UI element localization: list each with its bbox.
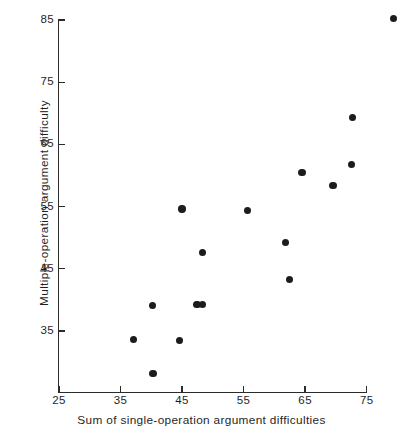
x-tick-mark [304, 386, 305, 392]
data-point [193, 301, 200, 308]
x-tick-mark [181, 386, 182, 392]
x-axis-title: Sum of single-operation argument difficu… [0, 413, 403, 427]
data-point [329, 182, 336, 189]
data-point [149, 370, 156, 377]
y-tick-mark [59, 268, 65, 269]
x-tick-mark [58, 386, 59, 392]
scatter-plot-figure: 354555657585 253545556575 Sum of single-… [0, 0, 403, 438]
data-point [130, 336, 137, 343]
x-tick-label: 35 [106, 394, 136, 406]
data-point [149, 302, 156, 309]
data-point [199, 249, 206, 256]
data-point [282, 239, 289, 246]
y-tick-label: 85 [24, 13, 54, 25]
x-tick-label: 65 [290, 394, 320, 406]
data-point [178, 205, 185, 212]
y-tick-mark [59, 330, 65, 331]
y-tick-mark [59, 82, 65, 83]
x-tick-label: 45 [167, 394, 197, 406]
data-point [199, 301, 206, 308]
data-point [348, 161, 355, 168]
y-tick-mark [59, 206, 65, 207]
x-tick-mark [120, 386, 121, 392]
y-tick-mark [59, 19, 65, 20]
data-point [390, 15, 397, 22]
y-tick-mark [59, 144, 65, 145]
x-tick-label: 25 [44, 394, 74, 406]
data-point [244, 207, 251, 214]
data-point [349, 114, 356, 121]
data-point [298, 169, 305, 176]
x-axis-line [58, 392, 367, 393]
x-tick-label: 55 [229, 394, 259, 406]
x-tick-mark [243, 386, 244, 392]
data-point [176, 337, 183, 344]
data-point [286, 276, 293, 283]
x-tick-label: 75 [352, 394, 382, 406]
y-axis-title: Multiple-operation argument difficulty [37, 53, 51, 353]
data-points-layer [0, 0, 403, 438]
x-tick-mark [366, 386, 367, 392]
